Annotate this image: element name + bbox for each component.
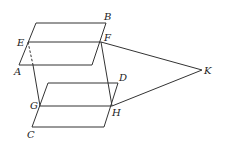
label-D: D xyxy=(118,72,127,83)
label-B: B xyxy=(103,11,111,22)
label-G: G xyxy=(30,100,38,111)
label-A: A xyxy=(13,66,21,77)
segment-EG-hidden xyxy=(28,42,33,65)
geometry-diagram: B E F A D G H C K xyxy=(0,0,226,150)
label-H: H xyxy=(111,107,121,118)
label-C: C xyxy=(27,129,35,140)
label-E: E xyxy=(16,37,25,48)
segment-FH xyxy=(101,42,112,106)
lower-plane xyxy=(32,83,118,127)
label-K: K xyxy=(203,65,212,76)
label-F: F xyxy=(103,32,112,43)
upper-plane xyxy=(19,23,106,65)
segment-FK xyxy=(101,42,202,70)
